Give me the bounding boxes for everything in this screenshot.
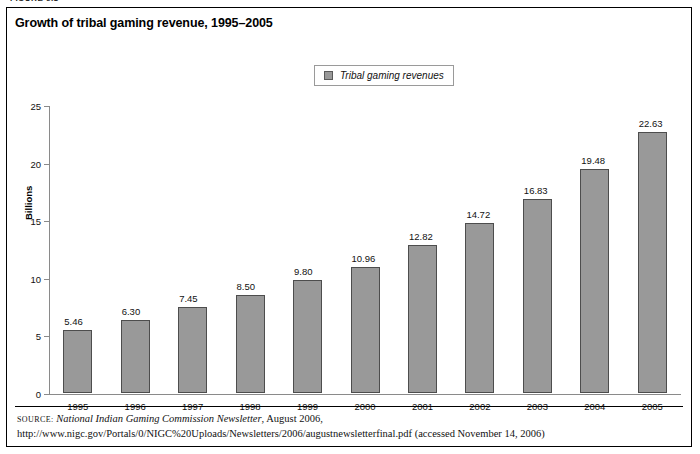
bar-rect[interactable]: 19.48 bbox=[580, 169, 609, 393]
bar-value-label: 5.46 bbox=[64, 316, 83, 327]
y-axis-tick-label: 25 bbox=[30, 101, 41, 112]
bar-rect[interactable]: 6.30 bbox=[121, 320, 150, 393]
bar-item[interactable]: 16.83 bbox=[523, 199, 552, 393]
bar-rect[interactable]: 8.50 bbox=[236, 295, 265, 393]
figure-caption: FIGURE 6.1 bbox=[10, 0, 59, 3]
source-note: Source: National Indian Gaming Commissio… bbox=[17, 411, 677, 441]
y-axis-tick-mark bbox=[44, 336, 49, 337]
bar-item[interactable]: 8.50 bbox=[236, 295, 265, 393]
y-axis-tick-label: 15 bbox=[30, 216, 41, 227]
source-prefix-label: Source: bbox=[17, 415, 54, 424]
y-axis-tick-mark bbox=[44, 106, 49, 107]
bar-item[interactable]: 10.96 bbox=[351, 267, 380, 393]
bar-item[interactable]: 6.30 bbox=[121, 320, 150, 393]
bar-rect[interactable]: 22.63 bbox=[638, 132, 667, 393]
bar-value-label: 9.80 bbox=[294, 266, 313, 277]
y-axis-tick-label: 20 bbox=[30, 158, 41, 169]
bar-rect[interactable]: 10.96 bbox=[351, 267, 380, 393]
bar-item[interactable]: 22.63 bbox=[638, 132, 667, 393]
bar-rect[interactable]: 14.72 bbox=[465, 223, 494, 393]
chart-legend: Tribal gaming revenues bbox=[314, 65, 454, 86]
plot-area: 0510152025 5.466.307.458.509.8010.9612.8… bbox=[49, 106, 681, 394]
y-axis-tick-label: 5 bbox=[36, 331, 41, 342]
bar-value-label: 22.63 bbox=[639, 118, 663, 129]
bar-item[interactable]: 14.72 bbox=[465, 223, 494, 393]
x-axis-line bbox=[49, 394, 681, 395]
y-axis-tick-mark bbox=[44, 279, 49, 280]
y-axis-line bbox=[49, 106, 50, 395]
bar-value-label: 14.72 bbox=[466, 209, 490, 220]
legend-swatch-icon bbox=[324, 71, 333, 80]
y-axis-tick-mark bbox=[44, 164, 49, 165]
bar-value-label: 12.82 bbox=[409, 231, 433, 242]
bar-value-label: 8.50 bbox=[237, 281, 256, 292]
y-axis-tick-label: 10 bbox=[30, 273, 41, 284]
page-title: Growth of tribal gaming revenue, 1995–20… bbox=[15, 16, 273, 30]
y-axis-tick-label: 0 bbox=[36, 389, 41, 400]
bar-value-label: 19.48 bbox=[581, 155, 605, 166]
source-divider bbox=[15, 406, 683, 407]
bar-value-label: 7.45 bbox=[179, 293, 198, 304]
bar-item[interactable]: 19.48 bbox=[580, 169, 609, 393]
source-publication-title: National Indian Gaming Commission Newsle… bbox=[56, 413, 261, 424]
bar-rect[interactable]: 7.45 bbox=[178, 307, 207, 393]
bar-item[interactable]: 7.45 bbox=[178, 307, 207, 393]
bar-rect[interactable]: 9.80 bbox=[293, 280, 322, 393]
bar-value-label: 10.96 bbox=[352, 253, 376, 264]
bar-value-label: 6.30 bbox=[122, 306, 141, 317]
y-axis-tick-mark bbox=[44, 221, 49, 222]
legend-item-label: Tribal gaming revenues bbox=[340, 70, 444, 81]
bar-item[interactable]: 5.46 bbox=[63, 330, 92, 393]
bar-rect[interactable]: 16.83 bbox=[523, 199, 552, 393]
y-axis-tick-mark bbox=[44, 394, 49, 395]
bar-item[interactable]: 12.82 bbox=[408, 245, 437, 393]
bar-rect[interactable]: 5.46 bbox=[63, 330, 92, 393]
bar-item[interactable]: 9.80 bbox=[293, 280, 322, 393]
bar-value-label: 16.83 bbox=[524, 185, 548, 196]
figure-frame: Growth of tribal gaming revenue, 1995–20… bbox=[6, 7, 692, 447]
bar-rect[interactable]: 12.82 bbox=[408, 245, 437, 393]
